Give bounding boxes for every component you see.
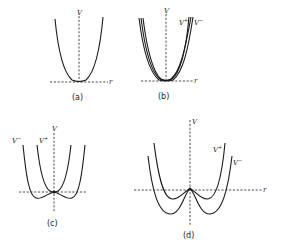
curve-label-v-minus: V− <box>12 135 21 145</box>
panel-caption: (c) <box>47 219 58 228</box>
panel-caption: (d) <box>183 231 194 240</box>
panel-b: V r V+ V− (b) <box>139 7 203 101</box>
panel-caption: (b) <box>158 92 169 101</box>
curve-label-v-plus: V+ <box>179 17 188 27</box>
potential-curves-figure: V r (a) V r V+ V− (b) V V− V+ (c) V r V <box>0 0 282 251</box>
curve-label-v-minus: V− <box>194 17 203 27</box>
v-axis-label: V <box>52 125 58 133</box>
curve-label-v-minus: V− <box>233 157 242 167</box>
v-axis-label: V <box>77 9 83 17</box>
crossing-point <box>52 190 55 193</box>
panel-a: V r (a) <box>50 9 113 102</box>
r-axis-label: r <box>109 78 113 86</box>
panel-caption: (a) <box>72 93 83 102</box>
panel-d: V r V+ V− (d) <box>134 118 267 240</box>
r-axis-label: r <box>194 77 198 85</box>
crossing-point <box>188 187 191 190</box>
curve-label-v-plus: V+ <box>39 135 48 145</box>
r-axis-label: r <box>263 186 267 194</box>
v-axis-label: V <box>164 7 170 15</box>
curve-label-v-plus: V+ <box>213 144 222 154</box>
potential-curve <box>55 17 103 82</box>
panel-c: V V− V+ (c) <box>12 125 86 228</box>
v-axis-label: V <box>192 118 198 126</box>
